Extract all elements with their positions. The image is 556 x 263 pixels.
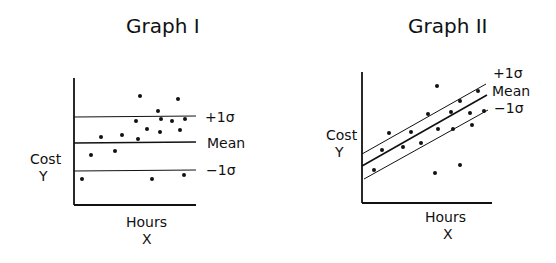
data-point <box>458 99 462 103</box>
graph-1-mean-label: Mean <box>207 135 245 151</box>
data-point <box>138 94 142 98</box>
data-point <box>134 119 138 123</box>
data-point <box>158 130 162 134</box>
data-point <box>380 148 384 152</box>
data-point <box>470 123 474 127</box>
data-point <box>150 177 154 181</box>
data-point <box>89 153 93 157</box>
graph-2-mean-label: Mean <box>492 83 530 99</box>
data-point <box>433 171 437 175</box>
graph-1-x-var: X <box>142 231 152 247</box>
graph-2-title: Graph II <box>408 14 488 38</box>
data-point <box>451 127 455 131</box>
graph-2: Graph II Cost Y Hours X +1σ Mean −1σ <box>326 14 530 242</box>
graph-2-x-var: X <box>443 226 453 242</box>
graph-1-points <box>80 94 187 181</box>
data-point <box>449 110 453 114</box>
data-point <box>409 130 413 134</box>
graph-1-y-label: Cost <box>30 151 62 167</box>
graph-2-points <box>372 84 486 175</box>
data-point <box>435 84 439 88</box>
data-point <box>436 127 440 131</box>
data-point <box>482 109 486 113</box>
data-point <box>159 117 163 121</box>
figure-canvas: Graph I Cost Y Hours X +1σ Mean −1σ Grap… <box>0 0 556 263</box>
data-point <box>426 112 430 116</box>
graph-2-y-var: Y <box>334 144 344 160</box>
data-point <box>468 111 472 115</box>
data-point <box>113 149 117 153</box>
data-point <box>419 141 423 145</box>
data-point <box>145 127 149 131</box>
graph-2-plus-sigma-label: +1σ <box>493 65 523 81</box>
graph-1-minus-sigma-label: −1σ <box>206 162 236 178</box>
plus-line <box>74 116 196 117</box>
data-point <box>387 131 391 135</box>
mean-line <box>362 95 487 166</box>
data-point <box>176 97 180 101</box>
data-point <box>458 163 462 167</box>
minus-line <box>364 110 488 179</box>
graph-1-y-var: Y <box>38 168 48 184</box>
plus-line <box>362 84 486 154</box>
graph-2-x-label: Hours <box>425 209 466 225</box>
graph-1-title: Graph I <box>126 14 200 38</box>
graph-2-y-label: Cost <box>326 127 358 143</box>
data-point <box>372 168 376 172</box>
data-point <box>182 173 186 177</box>
data-point <box>183 117 187 121</box>
graph-2-minus-sigma-label: −1σ <box>494 100 524 116</box>
data-point <box>99 135 103 139</box>
mean-line <box>74 142 196 143</box>
graph-2-lines <box>362 72 492 203</box>
data-point <box>476 89 480 93</box>
data-point <box>120 133 124 137</box>
data-point <box>136 137 140 141</box>
data-point <box>170 119 174 123</box>
data-point <box>178 128 182 132</box>
data-point <box>80 177 84 181</box>
data-point <box>156 109 160 113</box>
graph-1: Graph I Cost Y Hours X +1σ Mean −1σ <box>30 14 245 247</box>
minus-line <box>74 170 196 171</box>
graph-1-x-label: Hours <box>126 214 167 230</box>
graph-1-plus-sigma-label: +1σ <box>205 109 235 125</box>
data-point <box>401 145 405 149</box>
